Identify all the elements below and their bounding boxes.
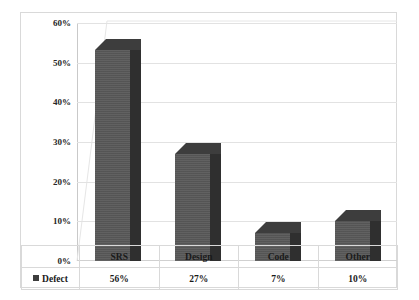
bar-other-top (335, 210, 381, 221)
table-row-categories: SRS Design Code Other (22, 246, 398, 268)
y-axis-tick-60: 60% (53, 19, 71, 28)
table-value-srs: 56% (80, 268, 160, 290)
table-corner-blank (22, 246, 80, 268)
filled-square-icon (33, 275, 39, 281)
bar-code-top (255, 222, 301, 233)
table-row-values: Defect 56% 27% 7% 10% (22, 268, 398, 290)
table-value-other: 10% (318, 268, 398, 290)
y-axis-tick-10: 10% (53, 217, 71, 226)
chart-frame: 60% 50% 40% 30% 20% 10% 0% (20, 12, 397, 288)
bar-srs[interactable] (95, 39, 141, 261)
bar-design[interactable] (175, 143, 221, 261)
y-axis-tick-30: 30% (53, 138, 71, 147)
table-header-code: Code (239, 246, 319, 268)
bar-srs-top (95, 39, 141, 50)
gridline-60 (77, 23, 397, 24)
legend-label: Defect (42, 274, 68, 284)
table-header-design: Design (159, 246, 239, 268)
bar-design-top (175, 143, 221, 154)
data-table: SRS Design Code Other Defect 56% 27% 7% … (21, 245, 398, 287)
table-header-other: Other (318, 246, 398, 268)
plot-area (77, 23, 397, 261)
y-axis-labels: 60% 50% 40% 30% 20% 10% 0% (21, 23, 75, 261)
table-header-srs: SRS (80, 246, 160, 268)
y-axis-tick-40: 40% (53, 98, 71, 107)
y-axis-tick-50: 50% (53, 58, 71, 67)
legend-defect[interactable]: Defect (22, 268, 80, 290)
bar-srs-front (95, 50, 130, 261)
bar-srs-side (130, 50, 141, 261)
table-value-design: 27% (159, 268, 239, 290)
y-axis-tick-20: 20% (53, 177, 71, 186)
table-value-code: 7% (239, 268, 319, 290)
